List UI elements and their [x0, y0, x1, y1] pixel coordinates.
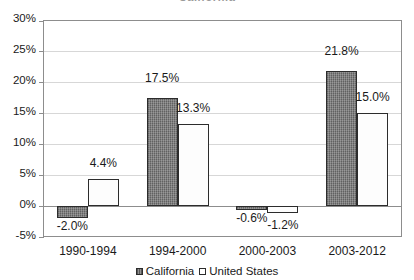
legend-label-california: California	[146, 265, 195, 277]
gridline	[44, 206, 401, 207]
legend-item-united-states[interactable]: United States	[199, 265, 278, 277]
legend-item-california[interactable]: California	[136, 265, 195, 277]
data-label: 21.8%	[314, 45, 370, 58]
y-axis-label: 10%	[2, 137, 36, 149]
y-axis-label: 5%	[2, 168, 36, 180]
data-label: -1.2%	[255, 219, 311, 232]
bar-united-states	[178, 124, 209, 206]
y-axis-tick	[39, 21, 44, 22]
bar-chart: California California United States 30%2…	[0, 0, 414, 280]
y-axis-label: 30%	[2, 13, 36, 25]
x-axis-label: 2003-2012	[312, 245, 402, 258]
y-axis-label: 25%	[2, 44, 36, 56]
y-axis-label: -5%	[2, 230, 36, 242]
y-axis-tick	[39, 206, 44, 207]
x-axis-label: 1994-2000	[133, 245, 223, 258]
white-square-icon	[199, 268, 206, 275]
data-label: -2.0%	[44, 220, 100, 233]
bar-united-states	[267, 206, 298, 213]
y-axis-label: 20%	[2, 75, 36, 87]
legend-label-united-states: United States	[209, 265, 278, 277]
data-label: 15.0%	[345, 91, 401, 104]
y-axis-label: 0%	[2, 199, 36, 211]
chart-legend: California United States	[0, 265, 414, 277]
x-axis-label: 2000-2003	[223, 245, 313, 258]
bar-united-states	[88, 179, 119, 206]
chart-title: California	[0, 0, 414, 1]
y-axis-tick	[39, 51, 44, 52]
bar-california	[57, 206, 88, 218]
data-label: 13.3%	[165, 102, 221, 115]
x-axis-label: 1990-1994	[43, 245, 133, 258]
y-axis-tick	[39, 175, 44, 176]
y-axis-tick	[39, 113, 44, 114]
bar-united-states	[357, 113, 388, 206]
dark-hatched-square-icon	[136, 268, 143, 275]
data-label: 17.5%	[134, 72, 190, 85]
y-axis-tick	[39, 237, 44, 238]
data-label: 4.4%	[75, 157, 131, 170]
y-axis-tick	[39, 82, 44, 83]
y-axis-label: 15%	[2, 106, 36, 118]
y-axis-tick	[39, 144, 44, 145]
bar-california	[236, 206, 267, 210]
